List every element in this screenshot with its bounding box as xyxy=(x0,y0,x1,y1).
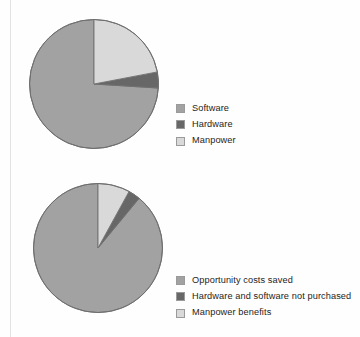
legend-costs: Software Hardware Manpower xyxy=(176,104,236,153)
legend-label-software: Software xyxy=(192,104,229,113)
legend-label-manpower-benefits: Manpower benefits xyxy=(192,308,271,317)
legend-item-manpower-benefits[interactable]: Manpower benefits xyxy=(176,308,351,317)
legend-label-hardware-software-not-purchased: Hardware and software not purchased xyxy=(192,292,351,301)
legend-item-hardware-software-not-purchased[interactable]: Hardware and software not purchased xyxy=(176,292,351,301)
legend-label-opportunity-costs-saved: Opportunity costs saved xyxy=(192,276,293,285)
pie-chart-benefits xyxy=(32,182,164,314)
pie-svg-costs xyxy=(28,18,160,150)
figure-costs: Software Hardware Manpower xyxy=(0,0,360,170)
legend-benefits: Opportunity costs saved Hardware and sof… xyxy=(176,276,351,325)
legend-item-opportunity-costs-saved[interactable]: Opportunity costs saved xyxy=(176,276,351,285)
legend-item-manpower[interactable]: Manpower xyxy=(176,136,236,145)
figure-benefits: Opportunity costs saved Hardware and sof… xyxy=(0,170,360,337)
legend-swatch-software xyxy=(176,104,185,113)
page-canvas: Software Hardware Manpower Opportunity c… xyxy=(0,0,360,337)
legend-swatch-opportunity-costs-saved xyxy=(176,276,185,285)
legend-swatch-manpower xyxy=(176,137,185,146)
legend-item-hardware[interactable]: Hardware xyxy=(176,120,236,129)
legend-label-hardware: Hardware xyxy=(192,120,233,129)
legend-item-software[interactable]: Software xyxy=(176,104,236,113)
legend-swatch-hardware-software-not-purchased xyxy=(176,292,185,301)
pie-chart-costs xyxy=(28,18,160,150)
pie-svg-benefits xyxy=(32,182,164,314)
legend-swatch-hardware xyxy=(176,120,185,129)
legend-swatch-manpower-benefits xyxy=(176,309,185,318)
legend-label-manpower: Manpower xyxy=(192,136,236,145)
